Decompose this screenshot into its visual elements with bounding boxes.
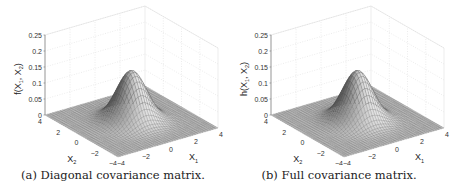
x2-tick: −4 [335, 160, 343, 165]
x2-tick: −2 [317, 150, 325, 157]
x2-tick: 4 [38, 118, 42, 125]
x1-tick: 2 [194, 138, 198, 145]
x1-tick: 4 [219, 131, 223, 138]
z-tick: 0.15 [28, 64, 42, 71]
x2-tick: 4 [264, 118, 268, 125]
subfigure-a: 00.050.10.150.20.25−4−2024−4−2024X1X2f(X… [0, 0, 226, 189]
surface-mesh [45, 71, 218, 157]
x1-tick: −4 [117, 160, 125, 165]
x2-axis-label: X2 [67, 154, 76, 165]
z-tick: 0.05 [28, 96, 42, 103]
x1-tick: 0 [169, 146, 173, 153]
x2-tick: −2 [91, 150, 99, 157]
x1-tick: −2 [368, 153, 376, 160]
x2-axis-label: X2 [293, 154, 302, 165]
z-tick: 0.25 [28, 32, 42, 39]
x1-tick: 2 [420, 138, 424, 145]
z-tick: 0.2 [258, 48, 268, 55]
x2-tick: 0 [75, 139, 79, 146]
x1-axis-label: X1 [189, 152, 198, 164]
x1-axis-label: X1 [415, 152, 424, 164]
z-tick: 0.15 [254, 64, 268, 71]
x2-tick: 2 [56, 129, 60, 136]
z-tick: 0.05 [254, 96, 268, 103]
surface-plot-b: 00.050.10.150.20.25−4−2024−4−2024X1X2h(X… [226, 0, 452, 165]
x2-tick: −4 [109, 160, 117, 165]
x1-tick: 4 [445, 131, 449, 138]
z-tick: 0.2 [32, 48, 42, 55]
x1-tick: −4 [343, 160, 351, 165]
x2-tick: 2 [282, 129, 286, 136]
caption-a: (a) Diagonal covariance matrix. [0, 168, 226, 182]
surface-plot-a: 00.050.10.150.20.25−4−2024−4−2024X1X2f(X… [0, 0, 226, 165]
x1-tick: 0 [395, 146, 399, 153]
subfigure-b: 00.050.10.150.20.25−4−2024−4−2024X1X2h(X… [226, 0, 452, 189]
z-axis-label: f(X1, X2) [13, 63, 24, 95]
x1-tick: −2 [142, 153, 150, 160]
x2-tick: 0 [301, 139, 305, 146]
caption-b: (b) Full covariance matrix. [226, 168, 452, 182]
z-axis-label: h(X1, X2) [239, 62, 250, 96]
z-tick: 0.1 [32, 80, 42, 87]
z-tick: 0.1 [258, 80, 268, 87]
surface-mesh [271, 71, 444, 157]
z-tick: 0.25 [254, 32, 268, 39]
